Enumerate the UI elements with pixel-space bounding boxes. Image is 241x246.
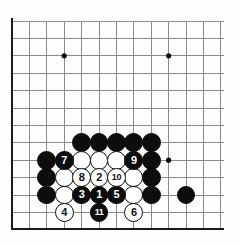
- numbered-stone-1[interactable]: 1: [90, 186, 109, 205]
- black-stone[interactable]: [177, 186, 196, 205]
- white-stone[interactable]: [124, 168, 143, 187]
- numbered-stone-10[interactable]: 10: [107, 168, 126, 187]
- go-board-diagram: 7982103154116: [0, 0, 241, 246]
- numbered-stone-2[interactable]: 2: [90, 168, 109, 187]
- white-stone[interactable]: [55, 168, 74, 187]
- stone-layer: 7982103154116: [0, 0, 241, 246]
- stone-label: 8: [79, 172, 85, 183]
- stone-label: 2: [96, 172, 102, 183]
- stone-label: 11: [95, 208, 104, 217]
- black-stone[interactable]: [142, 133, 161, 152]
- white-stone[interactable]: [107, 151, 126, 170]
- black-stone[interactable]: [90, 133, 109, 152]
- stone-label: 5: [114, 189, 120, 200]
- numbered-stone-9[interactable]: 9: [124, 151, 143, 170]
- numbered-stone-3[interactable]: 3: [72, 186, 91, 205]
- numbered-stone-5[interactable]: 5: [107, 186, 126, 205]
- black-stone[interactable]: [142, 151, 161, 170]
- stone-label: 7: [61, 155, 67, 166]
- black-stone[interactable]: [37, 186, 56, 205]
- stone-label: 4: [61, 207, 67, 218]
- white-stone[interactable]: [90, 151, 109, 170]
- stone-label: 10: [112, 173, 121, 182]
- black-stone[interactable]: [142, 186, 161, 205]
- numbered-stone-4[interactable]: 4: [55, 203, 74, 222]
- numbered-stone-7[interactable]: 7: [55, 151, 74, 170]
- black-stone[interactable]: [72, 133, 91, 152]
- black-stone[interactable]: [142, 168, 161, 187]
- numbered-stone-11[interactable]: 11: [90, 203, 109, 222]
- black-stone[interactable]: [107, 133, 126, 152]
- stone-label: 1: [96, 189, 102, 200]
- black-stone[interactable]: [37, 151, 56, 170]
- white-stone[interactable]: [124, 186, 143, 205]
- numbered-stone-6[interactable]: 6: [124, 203, 143, 222]
- numbered-stone-8[interactable]: 8: [72, 168, 91, 187]
- black-stone[interactable]: [37, 168, 56, 187]
- stone-label: 9: [131, 155, 137, 166]
- white-stone[interactable]: [55, 186, 74, 205]
- black-stone[interactable]: [124, 133, 143, 152]
- stone-label: 6: [131, 207, 137, 218]
- white-stone[interactable]: [72, 151, 91, 170]
- stone-label: 3: [79, 189, 85, 200]
